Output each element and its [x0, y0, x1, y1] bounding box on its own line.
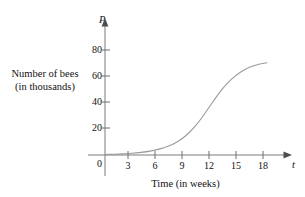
population-curve: [105, 63, 267, 155]
y-axis-arrowhead: [102, 18, 109, 27]
bee-population-chart: Number of bees (in thousands) Time (in w…: [0, 0, 305, 197]
x-axis-arrowhead: [284, 152, 293, 159]
axes-group: [88, 18, 292, 176]
plot-area: [0, 0, 305, 197]
